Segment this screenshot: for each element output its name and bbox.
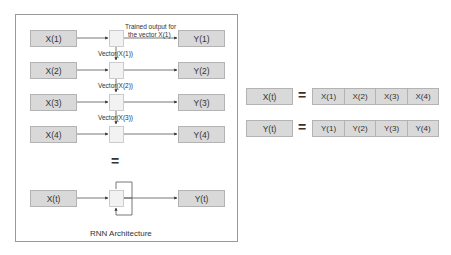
rolled-input-xt: X(t) [30, 190, 77, 207]
xt-cell-1: X(1) [312, 88, 345, 105]
output-y4: Y(4) [178, 126, 225, 143]
hidden-label-1: Vector(X(1)) [98, 50, 133, 57]
rolled-output-yt: Y(t) [178, 190, 225, 207]
rnn-cell-3 [109, 94, 124, 111]
output-y2: Y(2) [178, 62, 225, 79]
xt-cell-3: X(3) [375, 88, 408, 105]
rolled-rnn-cell [109, 190, 124, 207]
output-y3: Y(3) [178, 94, 225, 111]
yt-cell-1: Y(1) [312, 120, 345, 137]
xt-equals: = [298, 87, 306, 103]
xt-lhs: X(t) [246, 88, 293, 105]
annotation-line2: the vector X(1) [128, 31, 171, 38]
yt-cell-2: Y(2) [344, 120, 376, 137]
input-x4: X(4) [30, 126, 77, 143]
xt-cell-4: X(4) [407, 88, 439, 105]
yt-cell-4: Y(4) [407, 120, 439, 137]
hidden-label-3: Vector(X(3)) [98, 114, 133, 121]
yt-lhs: Y(t) [246, 120, 293, 137]
yt-cell-3: Y(3) [375, 120, 408, 137]
annotation-line1: Trained output for [125, 23, 176, 30]
input-x3: X(3) [30, 94, 77, 111]
hidden-label-2: Vector(X(2)) [98, 82, 133, 89]
diagram-caption: RNN Architecture [90, 229, 152, 238]
yt-equals: = [298, 119, 306, 135]
rnn-cell-4 [109, 126, 124, 143]
rnn-cell-1 [109, 30, 124, 47]
input-x2: X(2) [30, 62, 77, 79]
output-y1: Y(1) [178, 30, 225, 47]
input-x1: X(1) [30, 30, 77, 47]
equals-sign: = [111, 153, 119, 169]
xt-cell-2: X(2) [344, 88, 376, 105]
rnn-cell-2 [109, 62, 124, 79]
